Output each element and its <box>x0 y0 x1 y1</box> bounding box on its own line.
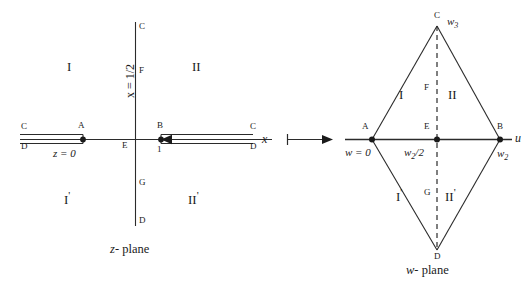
w-plane-caption-rest: - plane <box>414 263 448 277</box>
z-point-a-label: A <box>78 121 85 130</box>
w-region-two-prime-label: II' <box>445 187 456 203</box>
z-region-one-label: I <box>67 60 71 73</box>
w-plane-group <box>345 26 512 250</box>
z-point-b-dot <box>158 137 164 143</box>
z-plane-caption: z- plane <box>110 243 149 256</box>
z-region-two-prime-label: II' <box>188 190 199 206</box>
z-point-d-bottom-label: D <box>139 216 146 225</box>
z-point-c-top-label: C <box>139 22 145 31</box>
w-point-e-dot <box>434 137 440 143</box>
z-region-one-prime-mark: ' <box>68 189 70 201</box>
z-left-slit-c-label: C <box>21 122 27 131</box>
z-vertical-line-label: x = 1/2 <box>124 64 136 98</box>
z-plane-group <box>20 22 272 226</box>
z-plane-caption-rest: - plane <box>115 242 149 256</box>
w-point-b-dot <box>497 137 503 143</box>
w-point-a-dot <box>369 137 375 143</box>
w-point-d-label: D <box>434 252 441 261</box>
z-right-slit-c-label: C <box>250 122 256 131</box>
z-region-two-prime-numeral: II <box>188 192 197 207</box>
z-point-e-label: E <box>122 141 128 150</box>
z-origin-value-label: z = 0 <box>53 148 76 159</box>
z-right-slit-d-label: D <box>250 142 257 151</box>
z-left-slit-d-label: D <box>21 142 28 151</box>
z-right-slit-arrowhead <box>161 135 172 144</box>
w-point-a-value-label: w = 0 <box>345 147 371 158</box>
w-point-b-value-sub: 2 <box>504 153 508 162</box>
z-axis-label: x <box>262 133 267 145</box>
z-region-two-label: II <box>192 60 201 73</box>
w-point-g-label: G <box>424 188 431 197</box>
w-edge-c-b <box>437 26 500 140</box>
w-point-b-label: B <box>497 122 503 131</box>
w-point-c-label: C <box>434 11 440 20</box>
w-point-e-value-label: w2/2 <box>404 147 424 161</box>
z-point-g-label: G <box>139 178 146 187</box>
w-point-e-label: E <box>424 122 430 131</box>
w-region-one-label: I <box>399 88 403 101</box>
w-region-two-label: II <box>448 88 457 101</box>
w-point-e-value-rest: /2 <box>415 146 424 158</box>
w-region-one-prime-label: I' <box>396 187 402 203</box>
z-region-two-prime-mark: ' <box>197 189 199 201</box>
z-point-b-label: B <box>157 121 163 130</box>
w-point-c-value-sub: 3 <box>454 21 458 30</box>
w-plane-caption: w- plane <box>406 264 449 277</box>
w-axis-label: u <box>515 132 521 144</box>
w-point-b-value-label: w2 <box>497 148 508 162</box>
z-region-one-prime-label: I' <box>64 190 70 206</box>
w-region-two-prime-numeral: II <box>445 189 454 204</box>
mapping-arrow-group <box>288 134 334 145</box>
w-point-a-label: A <box>362 122 369 131</box>
figure-canvas: x = 1/2 C F E G D C D A z = 0 B 1 C D x … <box>0 0 531 281</box>
w-point-c-value-label: w3 <box>447 16 458 30</box>
z-point-b-value-label: 1 <box>157 145 162 154</box>
w-point-f-label: F <box>424 83 429 92</box>
w-region-one-prime-mark: ' <box>400 186 402 198</box>
z-point-a-dot <box>80 137 86 143</box>
mapping-arrow-head <box>322 135 333 144</box>
z-point-f-label: F <box>139 66 144 75</box>
w-region-two-prime-mark: ' <box>454 186 456 198</box>
